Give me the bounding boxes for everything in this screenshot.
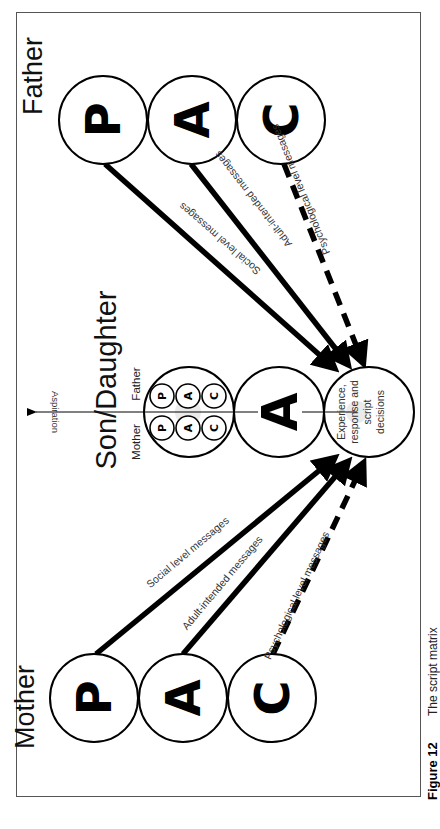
- father-parent-letter: P: [75, 102, 131, 137]
- mini-father-parent-letter: P: [156, 392, 169, 400]
- father-arrows: [105, 164, 362, 366]
- experience-line-3: script: [361, 399, 373, 424]
- mother-child-letter: C: [244, 680, 300, 715]
- mother-adult-state: A: [139, 654, 227, 742]
- experience-line-1: Experience,: [335, 384, 347, 439]
- child-father-side-label: Father: [130, 367, 142, 400]
- mother-parent-letter: P: [66, 680, 122, 715]
- father-adult-state: A: [148, 76, 236, 164]
- caption-title: The script matrix: [426, 627, 440, 716]
- child-parent-state: P A C P A C: [144, 367, 234, 457]
- caption-number: Figure 12: [425, 742, 440, 800]
- mother-child-state: C: [228, 654, 316, 742]
- child-label: Son/Daughter: [90, 290, 122, 469]
- mini-father-child-letter: C: [208, 392, 221, 400]
- father-adult-letter: A: [164, 101, 220, 138]
- internalized-mother-states: P A C: [150, 416, 226, 440]
- mini-mother-parent-letter: P: [156, 424, 169, 432]
- script-matrix-diagram: Aspiration Father P A C Social level mes…: [0, 0, 440, 829]
- father-parent-state: P: [59, 76, 147, 164]
- mini-mother-child-letter: C: [208, 424, 221, 432]
- mother-ego-states: P A C: [50, 654, 316, 742]
- experience-line-2: response and: [348, 380, 360, 444]
- experience-line-4: decisions: [374, 390, 386, 434]
- internalized-father-states: P A C: [150, 384, 226, 408]
- aspiration-label: Aspiration: [50, 391, 61, 433]
- figure-caption: Figure 12 The script matrix: [425, 627, 440, 800]
- mother-social-arrow: [96, 460, 332, 654]
- child-mother-side-label: Mother: [130, 424, 142, 460]
- child-child-state: Experience, response and script decision…: [324, 367, 414, 457]
- mother-arrows: [96, 460, 362, 654]
- child-adult-state: A: [234, 367, 324, 457]
- father-label: Father: [18, 37, 48, 115]
- mother-parent-state: P: [50, 654, 138, 742]
- mother-label: Mother: [10, 665, 40, 749]
- child-adult-letter: A: [251, 392, 309, 431]
- mini-mother-adult-letter: A: [182, 423, 195, 432]
- mother-adult-letter: A: [155, 679, 211, 716]
- mini-father-adult-letter: A: [182, 391, 195, 400]
